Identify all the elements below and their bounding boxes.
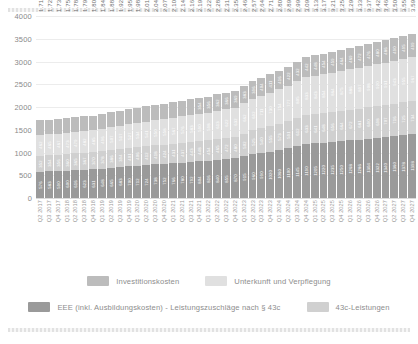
bar-column[interactable]: 2.196354590448804 xyxy=(195,16,203,198)
bar-segment[interactable]: 354 xyxy=(195,98,203,114)
bar-segment[interactable]: 920 xyxy=(373,64,381,106)
bar-segment[interactable]: 1378 xyxy=(399,135,407,198)
bar-column[interactable]: 3.0984428336331190 xyxy=(302,16,310,198)
bar-column[interactable]: 1.844496378648 xyxy=(98,16,106,198)
bar-segment[interactable]: 476 xyxy=(364,44,372,66)
bar-segment[interactable]: 864 xyxy=(328,73,336,112)
bar-column[interactable]: 2.9944328056121145 xyxy=(293,16,301,198)
bar-segment[interactable]: 396 xyxy=(249,81,257,99)
bar-segment[interactable]: 612 xyxy=(293,118,301,146)
bar-segment[interactable]: 583 xyxy=(45,171,53,198)
bar-segment[interactable]: 908 xyxy=(364,66,372,107)
bar-column[interactable]: 1.716462352576 xyxy=(36,16,44,198)
bar-column[interactable]: 3.5094909437161360 xyxy=(390,16,398,198)
bar-segment[interactable]: 875 xyxy=(337,71,345,111)
bar-segment[interactable]: 1020 xyxy=(266,152,274,198)
bar-segment[interactable]: 690 xyxy=(364,107,372,138)
bar-segment[interactable]: 854 xyxy=(320,74,328,113)
bar-segment[interactable]: 698 xyxy=(373,106,381,138)
bar-segment[interactable]: 490 xyxy=(390,38,398,60)
bar-segment[interactable]: 724 xyxy=(142,165,150,198)
bar-column[interactable]: 2.351369632480870 xyxy=(231,16,239,198)
bar-segment[interactable] xyxy=(169,102,177,118)
bar-segment[interactable]: 454 xyxy=(320,54,328,75)
bar-segment[interactable]: 1340 xyxy=(382,137,390,198)
bar-segment[interactable] xyxy=(54,119,62,134)
bar-segment[interactable]: 967 xyxy=(408,57,416,101)
bar-segment[interactable]: 734 xyxy=(408,101,416,134)
bar-segment[interactable]: 485 xyxy=(89,130,97,152)
bar-segment[interactable]: 365 xyxy=(71,153,79,170)
bar-column[interactable]: 2.141576437780 xyxy=(178,16,186,198)
bar-segment[interactable]: 681 xyxy=(355,109,363,140)
bar-segment[interactable]: 386 xyxy=(107,150,115,168)
bar-segment[interactable]: 738 xyxy=(151,164,159,198)
bar-segment[interactable]: 366 xyxy=(222,93,230,110)
bar-segment[interactable]: 648 xyxy=(320,113,328,142)
bar-segment[interactable]: 370 xyxy=(89,152,97,169)
bar-segment[interactable]: 616 xyxy=(71,170,79,198)
bar-segment[interactable]: 499 xyxy=(408,34,416,57)
bar-segment[interactable]: 1304 xyxy=(364,139,372,198)
bar-segment[interactable] xyxy=(71,117,79,132)
bar-column[interactable]: 3.2534648756641250 xyxy=(337,16,345,198)
bar-segment[interactable]: 623 xyxy=(80,170,88,198)
bar-segment[interactable]: 424 xyxy=(160,145,168,164)
bar-segment[interactable]: 990 xyxy=(257,153,265,198)
bar-segment[interactable]: 1060 xyxy=(275,150,283,198)
bar-segment[interactable]: 472 xyxy=(355,46,363,67)
bar-segment[interactable]: 672 xyxy=(346,110,354,141)
bar-column[interactable]: 1.782479365616 xyxy=(71,16,79,198)
bar-segment[interactable]: 632 xyxy=(231,108,239,137)
bar-segment[interactable]: 558 xyxy=(160,119,168,144)
bar-segment[interactable]: 469 xyxy=(346,48,354,69)
bar-segment[interactable]: 656 xyxy=(328,112,336,142)
bar-column[interactable]: 2.224356598454816 xyxy=(204,16,212,198)
bar-segment[interactable]: 833 xyxy=(302,77,310,115)
bar-column[interactable]: 3.5984999677341398 xyxy=(408,16,416,198)
bar-segment[interactable]: 502 xyxy=(240,134,248,157)
legend-item[interactable]: Investitionskosten xyxy=(87,276,179,286)
bar-segment[interactable]: 870 xyxy=(231,158,239,198)
bar-segment[interactable]: 1322 xyxy=(373,138,381,198)
bar-segment[interactable]: 1145 xyxy=(293,146,301,198)
bar-column[interactable]: 1.759473360600 xyxy=(63,16,71,198)
bar-column[interactable]: 2.109567431766 xyxy=(169,16,177,198)
bar-segment[interactable] xyxy=(187,99,195,115)
bar-segment[interactable]: 480 xyxy=(373,42,381,64)
bar-segment[interactable]: 416 xyxy=(275,71,283,90)
bar-segment[interactable]: 462 xyxy=(36,135,44,156)
bar-segment[interactable]: 1100 xyxy=(284,148,292,198)
bar-segment[interactable]: 752 xyxy=(160,164,168,198)
bar-column[interactable]: 2.045550418738 xyxy=(151,16,159,198)
bar-segment[interactable]: 1268 xyxy=(346,140,354,198)
bar-segment[interactable]: 730 xyxy=(266,93,274,126)
bar-segment[interactable]: 411 xyxy=(266,74,274,93)
bar-segment[interactable]: 495 xyxy=(399,36,407,59)
bar-column[interactable]: 3.2954698866721268 xyxy=(346,16,354,198)
bar-segment[interactable] xyxy=(98,114,106,129)
bar-segment[interactable]: 780 xyxy=(178,163,186,198)
bar-segment[interactable]: 356 xyxy=(54,155,62,171)
bar-column[interactable]: 2.315366622472855 xyxy=(222,16,230,198)
bar-segment[interactable]: 459 xyxy=(328,52,336,73)
bar-segment[interactable] xyxy=(89,116,97,130)
bar-segment[interactable]: 401 xyxy=(125,148,133,166)
bar-column[interactable]: 1.986534406712 xyxy=(133,16,141,198)
bar-segment[interactable]: 576 xyxy=(178,116,186,142)
bar-column[interactable]: 1.959527401700 xyxy=(125,16,133,198)
bar-segment[interactable]: 583 xyxy=(187,115,195,142)
bar-segment[interactable]: 683 xyxy=(116,167,124,198)
bar-segment[interactable]: 600 xyxy=(63,171,71,198)
bar-segment[interactable]: 897 xyxy=(355,68,363,109)
bar-segment[interactable]: 598 xyxy=(204,113,212,140)
bar-segment[interactable]: 707 xyxy=(382,105,390,137)
bar-segment[interactable] xyxy=(151,105,159,120)
bar-segment[interactable]: 406 xyxy=(133,147,141,165)
bar-column[interactable]: 2.645404711540990 xyxy=(257,16,265,198)
bar-segment[interactable] xyxy=(45,120,53,135)
bar-segment[interactable] xyxy=(125,109,133,124)
bar-segment[interactable]: 804 xyxy=(195,161,203,198)
bar-column[interactable]: 3.1374488436411205 xyxy=(311,16,319,198)
bar-segment[interactable]: 454 xyxy=(204,140,212,161)
